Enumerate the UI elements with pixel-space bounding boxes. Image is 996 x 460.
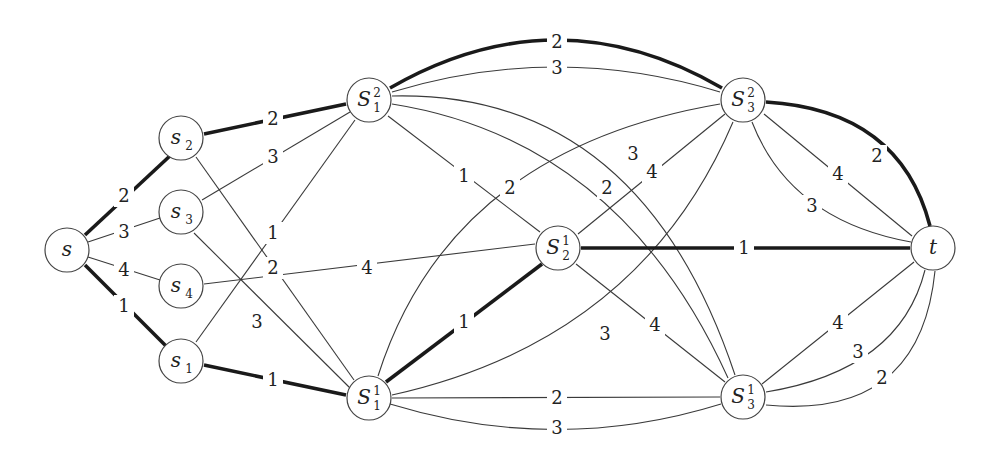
edge-weight-label: 4 [832, 312, 843, 333]
node-subscript: 3 [747, 398, 755, 412]
node-label: s [171, 125, 181, 149]
edge-weight-label: 1 [458, 311, 469, 332]
edge-weight-label: 3 [118, 221, 129, 242]
edge-weight-label: 3 [551, 417, 562, 438]
node-label: S [357, 385, 371, 409]
node-subscript: 1 [185, 362, 193, 376]
edge-weight-label: 4 [646, 161, 657, 182]
edge-weight-label: 2 [601, 177, 612, 198]
edge-weight-label: 2 [551, 387, 562, 408]
node-s: s [45, 228, 89, 272]
node-superscript: 1 [562, 234, 570, 248]
node-subscript: 4 [185, 287, 193, 301]
node-subscript: 1 [373, 101, 381, 115]
node-s3: s3 [159, 190, 203, 234]
edge-weight-label: 2 [504, 177, 515, 198]
edge-weight-label: 1 [738, 237, 749, 258]
edge-weight-label: 2 [551, 31, 562, 52]
node-S12: S21 [347, 78, 391, 122]
node-label: S [731, 87, 745, 111]
node-label: S [546, 235, 560, 259]
edge-weight-label: 4 [649, 314, 660, 335]
node-S32: S23 [721, 78, 765, 122]
edge-weight-label: 3 [551, 57, 562, 78]
node-superscript: 2 [747, 86, 755, 100]
node-subscript: 2 [185, 139, 193, 153]
node-superscript: 2 [373, 86, 381, 100]
edges-layer [85, 40, 935, 430]
node-S21: S12 [536, 226, 580, 270]
edge-S31-t [766, 271, 935, 406]
edge-weight-label: 3 [627, 143, 638, 164]
edge-weight-label: 2 [267, 108, 278, 129]
node-label: s [171, 273, 181, 297]
edge-weight-label: 3 [251, 311, 262, 332]
node-subscript: 3 [747, 101, 755, 115]
node-superscript: 1 [747, 383, 755, 397]
edge-weight-label: 2 [118, 185, 129, 206]
edge-weight-label: 1 [458, 165, 469, 186]
node-subscript: 1 [373, 399, 381, 413]
edge-weight-label: 3 [267, 146, 278, 167]
edge-weight-label: 1 [118, 295, 129, 316]
edge-weight-label: 4 [361, 257, 372, 278]
edge-weight-label: 3 [599, 323, 610, 344]
node-s1: s1 [159, 339, 203, 383]
edge-weight-label: 2 [871, 145, 882, 166]
node-s4: s4 [159, 264, 203, 308]
node-label: t [929, 235, 938, 259]
edge-weight-label: 3 [852, 341, 863, 362]
edge-weight-labels-layer: 234123123412313224324311423432 [114, 31, 892, 439]
node-label: s [62, 237, 72, 261]
node-S31: S13 [721, 375, 765, 419]
flow-network-diagram: 234123123412313224324311423432 ss2s3s4s1… [0, 0, 996, 460]
node-s2: s2 [159, 116, 203, 160]
edge-weight-label: 4 [832, 163, 843, 184]
node-subscript: 2 [562, 249, 570, 263]
edge-weight-label: 4 [118, 259, 129, 280]
node-label: S [357, 87, 371, 111]
edge-weight-label: 2 [876, 367, 887, 388]
node-S11: S11 [347, 376, 391, 420]
edge-weight-label: 1 [267, 369, 278, 390]
node-label: S [731, 384, 745, 408]
edge-weight-label: 3 [806, 195, 817, 216]
node-superscript: 1 [373, 384, 381, 398]
node-label: s [171, 348, 181, 372]
edge-weight-label: 2 [267, 257, 278, 278]
node-subscript: 3 [185, 213, 193, 227]
edge-weight-label: 1 [267, 222, 278, 243]
node-label: s [171, 199, 181, 223]
node-t: t [911, 226, 955, 270]
